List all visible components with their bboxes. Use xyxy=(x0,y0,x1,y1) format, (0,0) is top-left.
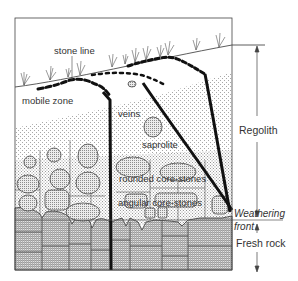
weathering-profile-diagram: stone line mobile zone veins saprolite r… xyxy=(0,0,298,281)
label-weathering-front-1: Weathering xyxy=(234,208,285,219)
label-mobile-zone: mobile zone xyxy=(22,95,73,106)
label-weathering-front-2: front xyxy=(234,221,255,232)
label-stone-line: stone line xyxy=(54,45,95,56)
label-angular-core-stones: angular core-stones xyxy=(118,197,202,208)
label-regolith: Regolith xyxy=(239,124,278,136)
label-veins: veins xyxy=(118,108,140,119)
grass-tufts xyxy=(21,33,225,85)
label-saprolite: saprolite xyxy=(142,139,178,150)
label-fresh-rock: Fresh rock xyxy=(236,237,286,249)
label-rounded-core-stones: rounded core-stones xyxy=(119,173,206,184)
